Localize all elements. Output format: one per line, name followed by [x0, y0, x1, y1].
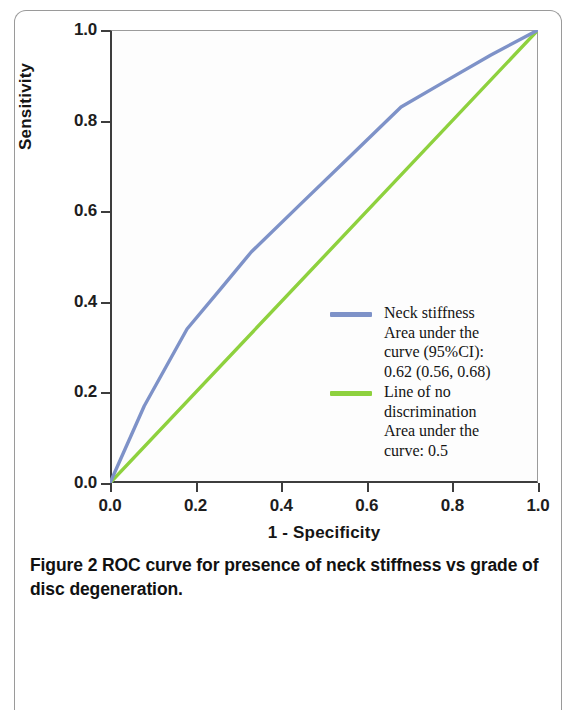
x-tick-label: 1.0 — [526, 496, 549, 516]
x-tick-mark — [452, 483, 454, 492]
y-tick-label: 0.4 — [74, 292, 97, 312]
y-axis-title: Sensitivity — [16, 63, 36, 150]
legend-swatch-neck-stiffness — [330, 312, 372, 317]
y-tick-mark — [101, 392, 110, 394]
chart-legend: Neck stiffness Area under the curve (95%… — [330, 303, 530, 461]
y-tick-mark — [101, 121, 110, 123]
x-tick-mark — [538, 483, 540, 492]
y-tick-label: 0.0 — [74, 473, 97, 493]
x-tick-label: 0.6 — [355, 496, 378, 516]
y-tick-label: 0.8 — [74, 111, 97, 131]
legend-label: Line of no discrimination Area under the… — [384, 382, 479, 460]
y-tick-mark — [101, 302, 110, 304]
x-tick-label: 0.4 — [270, 496, 293, 516]
figure-caption: Figure 2 ROC curve for presence of neck … — [30, 553, 540, 601]
y-tick-mark — [101, 30, 110, 32]
y-tick-label: 1.0 — [74, 20, 97, 40]
x-tick-label: 0.0 — [98, 496, 121, 516]
legend-label: Neck stiffness Area under the curve (95%… — [384, 303, 491, 381]
x-tick-mark — [367, 483, 369, 492]
y-tick-mark — [101, 211, 110, 213]
legend-item: Line of no discrimination Area under the… — [330, 382, 530, 460]
x-axis-title: 1 - Specificity — [110, 523, 538, 543]
x-tick-mark — [281, 483, 283, 492]
plot-region: 0.00.20.40.60.81.0 0.00.20.40.60.81.0 Ne… — [110, 30, 538, 483]
y-tick-label: 0.6 — [74, 201, 97, 221]
figure-caption-text: ROC curve for presence of neck stiffness… — [30, 555, 538, 599]
y-tick-mark — [101, 483, 110, 485]
x-tick-label: 0.8 — [441, 496, 464, 516]
x-tick-label: 0.2 — [184, 496, 207, 516]
x-tick-mark — [196, 483, 198, 492]
figure-caption-label: Figure 2 — [30, 555, 97, 575]
legend-item: Neck stiffness Area under the curve (95%… — [330, 303, 530, 381]
y-tick-label: 0.2 — [74, 382, 97, 402]
legend-swatch-line-of-no-discrimination — [330, 391, 372, 396]
x-tick-mark — [110, 483, 112, 492]
